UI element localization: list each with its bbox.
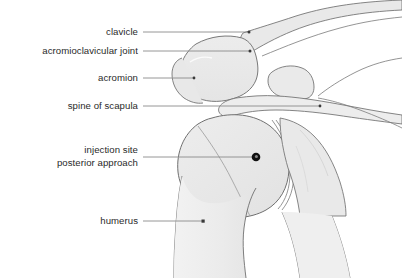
endpoint-dot-spine-of-scapula [319, 105, 322, 108]
label-injection-site-line1: injection site [57, 144, 138, 157]
anatomical-diagram: clavicle acromioclavicular joint acromio… [0, 0, 402, 278]
label-injection-site: injection site posterior approach [57, 144, 138, 170]
label-acromioclavicular-joint: acromioclavicular joint [42, 45, 138, 58]
lower-right-fill [282, 212, 350, 278]
injection-site-dot-inner [255, 155, 258, 158]
coracoid-process-shape [268, 66, 314, 100]
label-clavicle-text: clavicle [106, 26, 138, 37]
glenoid-fossa-shape [280, 118, 346, 216]
label-injection-site-line2: posterior approach [57, 157, 138, 170]
label-acromioclavicular-joint-text: acromioclavicular joint [42, 45, 138, 56]
scapula-lateral-border [318, 58, 402, 96]
clavicle-shape [239, 0, 402, 53]
endpoint-square-humerus [202, 220, 205, 223]
label-humerus-text: humerus [100, 215, 138, 226]
label-clavicle: clavicle [106, 26, 138, 39]
endpoint-dot-acromion [193, 77, 196, 80]
injection-site-marker[interactable] [252, 153, 261, 162]
bone-shapes [172, 0, 402, 278]
label-humerus: humerus [100, 215, 138, 228]
shoulder-anatomy-illustration [0, 0, 402, 278]
label-spine-of-scapula: spine of scapula [68, 100, 138, 113]
endpoint-dot-clavicle [248, 31, 251, 34]
label-acromion: acromion [98, 72, 138, 85]
label-acromion-text: acromion [98, 72, 138, 83]
endpoint-dot-ac-joint [249, 50, 252, 53]
label-spine-of-scapula-text: spine of scapula [68, 100, 138, 111]
